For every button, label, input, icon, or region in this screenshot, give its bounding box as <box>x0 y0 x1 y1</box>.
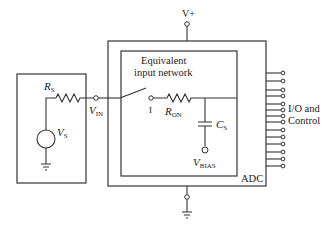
switch-icon <box>120 88 146 98</box>
resistor-rs-icon <box>56 94 94 102</box>
vbias-label: VBIAS <box>193 156 216 170</box>
source-wire-up <box>46 98 56 130</box>
vin-node-icon <box>94 96 99 101</box>
capacitor-cs-icon <box>198 98 212 146</box>
ron-label: RON <box>164 105 182 119</box>
vs-label: VS <box>57 126 68 140</box>
adc-box <box>108 41 266 186</box>
io-pins <box>266 71 285 168</box>
adc-ground-icon <box>182 199 192 218</box>
switch-contact-icon <box>149 96 153 100</box>
voltage-source-icon <box>37 130 55 148</box>
switch-mark: I <box>149 105 152 115</box>
io-label-line1: I/O and <box>288 103 321 114</box>
supply-label: V+ <box>182 8 195 19</box>
cs-label: CS <box>216 118 227 132</box>
vbias-node-icon <box>202 147 208 153</box>
network-title-line2: input network <box>134 67 193 78</box>
supply-pin-icon <box>185 22 190 27</box>
adc-label: ADC <box>241 173 263 184</box>
resistor-ron-icon <box>153 94 237 102</box>
vin-label: VIN <box>89 104 103 118</box>
network-title-line1: Equivalent <box>141 55 187 66</box>
source-ground-icon <box>41 148 51 170</box>
rs-label: RS <box>43 80 55 94</box>
adc-input-circuit-diagram: RS VIN VS Equivalent input network I RON… <box>0 0 336 232</box>
io-label-line2: Control <box>288 115 320 126</box>
adc-ground-pin-icon <box>185 195 190 200</box>
